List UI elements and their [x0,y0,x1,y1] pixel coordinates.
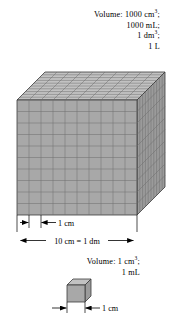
ten-cm-edge-dimension: 10 cm = 1 dm [21,237,134,246]
one-cm-cell-label: 1 cm [58,219,75,228]
figure-drawing: 1 cm 10 cm = 1 dm 1 cm [0,0,177,316]
small-cube-one-cm-label: 1 cm [102,304,119,313]
ten-cm-edge-label: 10 cm = 1 dm [54,237,100,246]
small-cube [67,279,91,302]
volume-units-figure: Volume: 1000 cm3; 1000 mL; 1 dm3; 1 L Vo… [0,0,177,316]
one-cm-cell-dimension: 1 cm [17,215,137,232]
small-cube-dimension: 1 cm [52,302,119,313]
large-cube [17,72,165,215]
small-cube-front-face [67,285,85,302]
